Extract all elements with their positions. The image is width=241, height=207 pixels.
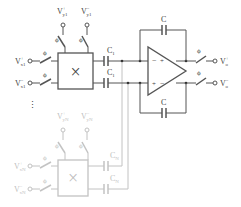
phi-label: ϕ [55, 36, 59, 44]
label-vo-plus: V+o [220, 56, 229, 67]
opamp-in-bottom-sign: + [152, 80, 156, 88]
phi-label: ϕ [55, 142, 59, 150]
mixer-symbol-n: × [68, 168, 78, 188]
phi-label: ϕ [43, 49, 47, 57]
switch-vx1-plus [40, 57, 51, 63]
cap-cn-bottom-label: CN [110, 174, 119, 184]
mixer-symbol-1: × [70, 62, 80, 82]
phi-label: ϕ [43, 71, 47, 79]
switch-vx1-minus [40, 79, 51, 85]
label-vxn-minus: V−xN [14, 184, 26, 195]
cap-c1-bottom-label: C1 [107, 68, 115, 78]
phi-label: ϕ [43, 177, 47, 185]
terminal-vo-plus [213, 59, 217, 63]
terminal-vo-minus [213, 81, 217, 85]
switch-vy1-plus [58, 36, 65, 47]
terminal-vx1-minus [28, 81, 32, 85]
phi-label: ϕ [197, 69, 201, 77]
cap-c1-top-label: C1 [107, 46, 115, 56]
opamp-out-top-sign: + [160, 57, 164, 65]
feedback-cap-top-label: C [161, 15, 166, 24]
label-vyn-plus: V+yN [57, 111, 69, 122]
feedback-cap-bottom-label: C [161, 98, 166, 107]
terminal-vy1-minus [85, 23, 89, 27]
cap-cn-top-label: CN [110, 151, 119, 161]
label-vx1-plus: V+x1 [15, 56, 26, 67]
phi-label: ϕ [197, 47, 201, 55]
label-vxn-plus: V+xN [14, 161, 26, 172]
phi-label: ϕ [43, 154, 47, 162]
opamp-in-top-sign: − [152, 56, 157, 65]
opamp-integrator [121, 25, 217, 118]
label-vy1-plus: V+y1 [57, 6, 68, 17]
switch-vy1-minus [82, 36, 88, 47]
terminal-vx1-plus [28, 59, 32, 63]
terminal-vy1-plus [61, 23, 65, 27]
switch-vo-plus [196, 56, 206, 63]
ellipsis: ⋮ [28, 100, 37, 110]
label-vy1-minus: V−y1 [81, 6, 92, 17]
phi-label: ϕ [79, 36, 83, 44]
label-vyn-minus: V−yN [81, 111, 93, 122]
opamp-out-bottom-sign: − [160, 79, 165, 88]
label-vo-minus: V−o [220, 78, 229, 89]
label-vx1-minus: V−x1 [15, 78, 26, 89]
switch-vo-minus [196, 78, 206, 85]
phi-label: ϕ [79, 142, 83, 150]
circuit-diagram: × ϕ ϕ ϕ ϕ V+y1 V−y1 V+x1 V−x1 C1 C1 ⋮ [0, 0, 241, 207]
